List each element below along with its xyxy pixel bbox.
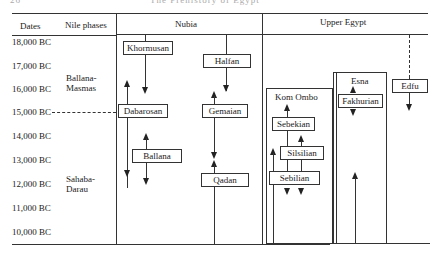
arrow-up-icon bbox=[350, 86, 356, 93]
esna-inner-line bbox=[336, 72, 337, 244]
sebekian-box: Sebekian bbox=[272, 117, 315, 131]
kom-ombo-label: Kom Ombo bbox=[275, 92, 318, 102]
edfu-dashed-line bbox=[409, 35, 410, 78]
date-label: 16,000 BC bbox=[12, 84, 51, 94]
arrow-down-icon bbox=[223, 85, 229, 92]
top-rule bbox=[12, 13, 428, 14]
header-nile-phases: Nile phases bbox=[65, 20, 107, 30]
phase-boundary-line bbox=[52, 112, 116, 113]
nile-phase-ballana-masmas: Ballana- Masmas bbox=[66, 73, 97, 93]
running-head-title: The Prehistory of Egypt bbox=[150, 0, 260, 5]
silsilian-box: Silsilian bbox=[280, 146, 324, 160]
arrow-down-icon bbox=[406, 104, 412, 111]
khormusan-box: Khormusan bbox=[123, 41, 173, 55]
fakhurian-box: Fakhurian bbox=[338, 94, 383, 108]
arrow-up-icon bbox=[124, 80, 130, 87]
page-number: 26 bbox=[10, 0, 21, 5]
arrow-down-icon bbox=[284, 188, 290, 195]
date-label: 15,000 BC bbox=[12, 107, 51, 117]
header-nubia: Nubia bbox=[175, 19, 197, 29]
date-label: 17,000 BC bbox=[12, 61, 51, 71]
qadan-box: Qadan bbox=[201, 173, 249, 187]
halfan-box: Halfan bbox=[203, 54, 251, 68]
sebilian-left-line bbox=[273, 153, 274, 244]
date-label: 18,000 BC bbox=[12, 37, 51, 47]
upper-egypt-header-rule bbox=[262, 34, 428, 35]
header-dates: Dates bbox=[20, 21, 41, 31]
esna-label: Esna bbox=[351, 76, 369, 86]
esna-rise-line bbox=[355, 178, 356, 244]
kom-ombo-frame bbox=[266, 88, 333, 244]
header-rule bbox=[12, 35, 116, 36]
header-upper-egypt: Upper Egypt bbox=[320, 17, 366, 27]
arrow-down-icon bbox=[298, 188, 304, 195]
date-label: 11,000 BC bbox=[12, 203, 51, 213]
date-label: 14,000 BC bbox=[12, 131, 51, 141]
arrow-down-icon bbox=[124, 170, 130, 177]
date-label: 13,000 BC bbox=[12, 155, 51, 165]
date-label: 12,000 BC bbox=[12, 179, 51, 189]
arrow-down-icon bbox=[143, 178, 149, 185]
nile-phase-sahaba-darau: Sahaba- Darau bbox=[66, 174, 95, 194]
sebilian-box: Sebilian bbox=[269, 171, 320, 185]
edfu-box: Edfu bbox=[392, 79, 428, 93]
arrow-down-icon bbox=[350, 109, 356, 116]
date-label: 10,000 BC bbox=[12, 227, 51, 237]
ballana-box: Ballana bbox=[132, 149, 182, 163]
dabarosan-box: Dabarosan bbox=[118, 104, 168, 118]
nubia-header-rule bbox=[116, 34, 262, 35]
arrow-down-icon bbox=[142, 87, 148, 94]
col-divider-upper-egypt bbox=[262, 13, 263, 244]
arrow-down-icon bbox=[211, 152, 217, 159]
gemaian-box: Gemaian bbox=[202, 104, 248, 118]
bottom-rule bbox=[12, 244, 330, 245]
col-divider-nubia bbox=[116, 13, 117, 244]
